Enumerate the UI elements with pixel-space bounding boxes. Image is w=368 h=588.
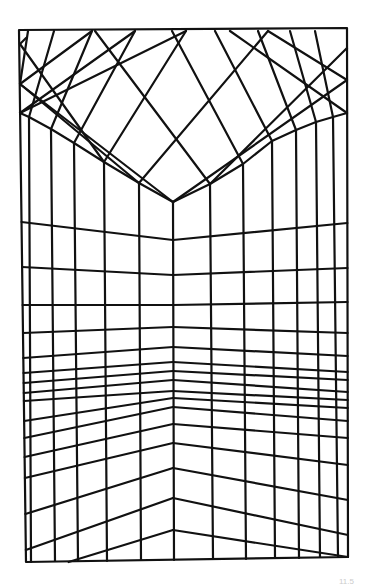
left-wall-horizontal: [69, 530, 173, 562]
left-wall-horizontal: [24, 398, 173, 421]
left-wall-vertical: [51, 129, 55, 561]
right-wall-horizontal: [173, 327, 348, 333]
left-wall-horizontal: [24, 407, 173, 438]
left-wall-horizontal: [24, 362, 173, 373]
left-wall-horizontal: [23, 327, 173, 333]
ceiling-grid-line: [315, 31, 333, 117]
left-wall-horizontal: [22, 267, 173, 275]
ceiling-grid: [20, 31, 347, 202]
left-wall-vertical: [139, 183, 141, 560]
right-wall-horizontal: [173, 380, 348, 392]
room-corner-perspective-grid: [0, 0, 368, 588]
figure-caption: 11.5: [339, 577, 354, 586]
wall-grid: [22, 117, 348, 562]
left-wall-horizontal: [25, 443, 173, 478]
right-wall-horizontal: [173, 223, 347, 240]
right-wall-horizontal: [173, 530, 348, 557]
ceiling-grid-line: [172, 31, 243, 164]
left-wall-vertical: [104, 162, 107, 561]
left-wall-horizontal: [25, 424, 173, 457]
left-wall-vertical: [29, 117, 31, 562]
perspective-grid-figure: [0, 0, 368, 588]
right-wall-horizontal: [173, 302, 348, 305]
right-wall-horizontal: [173, 371, 348, 380]
right-wall-horizontal: [173, 407, 348, 421]
right-wall-horizontal: [173, 443, 348, 465]
right-wall-vertical: [210, 184, 213, 559]
right-wall-horizontal: [173, 268, 347, 275]
ceiling-edge-left: [20, 113, 173, 202]
ceiling-grid-line: [268, 31, 347, 80]
left-wall-horizontal: [22, 222, 173, 240]
right-wall-horizontal: [173, 362, 348, 372]
left-wall-horizontal: [26, 498, 173, 550]
left-wall-horizontal: [23, 347, 173, 358]
right-wall-horizontal: [173, 468, 348, 500]
ceiling-edge-right: [173, 113, 347, 202]
right-wall-vertical: [272, 141, 275, 558]
ceiling-grid-line: [173, 80, 347, 202]
right-wall-vertical: [333, 117, 338, 557]
right-wall-vertical: [296, 130, 299, 558]
left-wall-horizontal: [24, 391, 173, 401]
right-wall-horizontal: [173, 347, 348, 356]
right-wall-vertical: [316, 122, 320, 557]
left-wall-horizontal: [25, 468, 173, 514]
right-wall-horizontal: [173, 498, 348, 535]
right-wall-vertical: [243, 164, 246, 559]
right-wall-horizontal: [173, 424, 348, 438]
